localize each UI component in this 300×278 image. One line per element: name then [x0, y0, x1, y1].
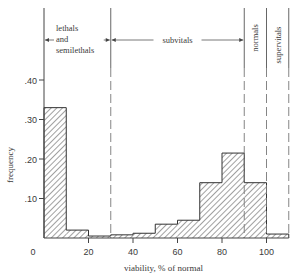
y-axis-label: frequency: [5, 147, 15, 183]
region-label: normals: [250, 24, 260, 51]
histogram-bar: [155, 224, 177, 238]
x-tick-label: 100: [259, 247, 274, 257]
histogram-bar: [222, 153, 244, 238]
viability-histogram: .10.20.30.40020406080100 viability, % of…: [0, 0, 300, 278]
y-tick-label: .10: [24, 194, 37, 204]
y-tick-label: .30: [24, 115, 37, 125]
region-label: subvitals: [162, 35, 192, 45]
histogram-bar: [44, 108, 66, 238]
x-axis-label: viability, % of normal: [124, 263, 203, 273]
x-tick-label: 20: [83, 247, 93, 257]
histogram-bar: [66, 230, 88, 238]
region-subvitals: subvitals: [112, 35, 244, 45]
x-tick-label: 80: [217, 247, 227, 257]
region-normals: normals: [250, 24, 260, 51]
histogram-bar: [267, 234, 289, 238]
x-tick-label: 40: [128, 247, 138, 257]
region-lethals-and-semilethals: lethalsandsemilethals: [45, 23, 110, 55]
region-label-line: lethals: [56, 23, 78, 33]
region-labels: lethalsandsemilethalssubvitalsnormalssup…: [45, 23, 283, 63]
region-label-line: and: [56, 34, 69, 44]
x-tick-label: 60: [172, 247, 182, 257]
histogram-bar: [200, 183, 222, 238]
histogram-bar: [133, 233, 155, 238]
histogram-bar: [244, 183, 266, 238]
histogram-bars: [44, 108, 289, 238]
y-tick-label: .40: [24, 76, 37, 86]
region-label-line: semilethals: [56, 45, 94, 55]
y-tick-label: .20: [24, 155, 37, 165]
histogram-bar: [178, 220, 200, 238]
region-label: supervitals: [273, 27, 283, 64]
region-supervitals: supervitals: [273, 27, 283, 64]
x-tick-label: 0: [30, 247, 35, 257]
